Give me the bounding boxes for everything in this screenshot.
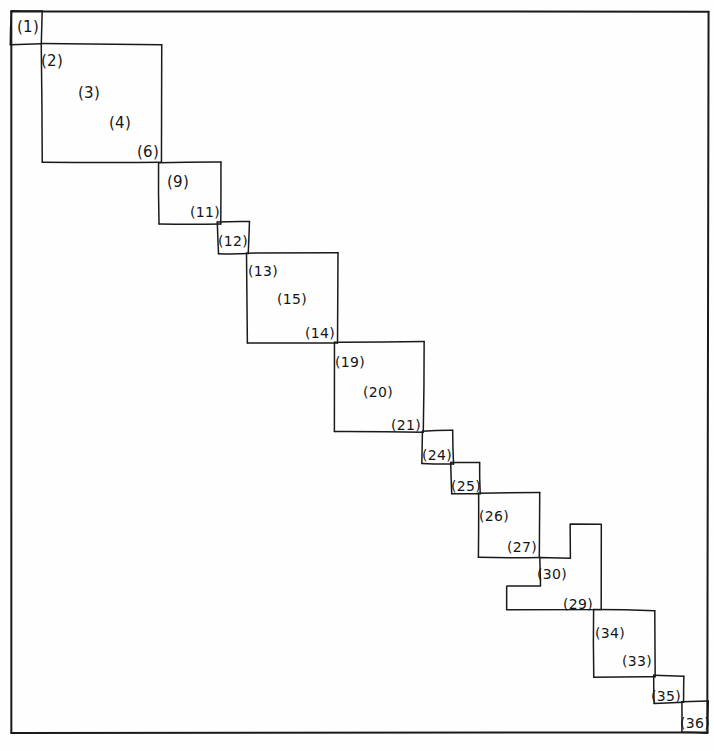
block-label-19: (19)	[335, 354, 365, 370]
block-label-35: (35)	[651, 688, 681, 704]
block-label-21: (21)	[391, 417, 421, 433]
block-label-13: (13)	[248, 263, 278, 279]
block-label-6: (6)	[137, 143, 159, 161]
block-label-26: (26)	[479, 508, 509, 524]
block-label-1: (1)	[17, 18, 39, 36]
block-label-15: (15)	[277, 291, 307, 307]
block-label-3: (3)	[78, 84, 100, 102]
block-label-9: (9)	[167, 173, 189, 191]
block-label-25: (25)	[451, 478, 481, 494]
block-label-20: (20)	[363, 384, 393, 400]
block-label-4: (4)	[109, 114, 131, 132]
block-label-27: (27)	[507, 539, 537, 555]
block-label-24: (24)	[422, 447, 452, 463]
block-label-14: (14)	[305, 325, 335, 341]
block-label-11: (11)	[190, 204, 220, 220]
block-label-12: (12)	[218, 233, 248, 249]
block-label-36: (36)	[680, 715, 710, 731]
block-label-29: (29)	[563, 596, 593, 612]
block-label-34: (34)	[595, 625, 625, 641]
block-label-30: (30)	[537, 566, 567, 582]
block-label-33: (33)	[622, 653, 652, 669]
block-label-2: (2)	[41, 52, 63, 70]
figure-canvas: (1)(2)(3)(4)(6)(9)(11)(12)(13)(15)(14)(1…	[0, 0, 714, 751]
